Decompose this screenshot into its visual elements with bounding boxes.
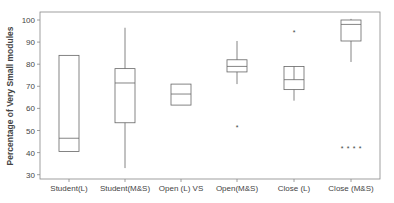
outlier-marker: * (236, 124, 239, 131)
y-axis: 30405060708090100 (22, 16, 40, 180)
box-close-m-s-: **** (341, 19, 362, 152)
x-tick-label: Open (L) VS (159, 184, 203, 193)
outlier-marker: * (347, 145, 350, 152)
y-tick-label: 100 (22, 16, 36, 25)
y-tick-label: 90 (26, 38, 35, 47)
box-open-m-s-: * (227, 41, 247, 131)
box-open-l-vs (171, 84, 191, 105)
plot-frame (40, 12, 380, 179)
box-student-m-s- (115, 28, 135, 168)
outlier-marker: * (359, 145, 362, 152)
iqr-box (227, 60, 247, 72)
box-student-l- (59, 55, 79, 151)
iqr-box (341, 20, 361, 41)
x-tick-label: Student(M&S) (100, 184, 151, 193)
x-tick-label: Student(L) (50, 184, 88, 193)
outlier-marker: * (353, 145, 356, 152)
y-tick-label: 60 (26, 104, 35, 113)
y-tick-label: 80 (26, 60, 35, 69)
x-tick-label: Close (M&S) (328, 184, 374, 193)
y-tick-label: 50 (26, 127, 35, 136)
iqr-box (171, 84, 191, 105)
plot-border (40, 12, 380, 179)
y-axis-label: Percentage of Very Small modules (5, 26, 15, 165)
box-close-l-: * (284, 29, 304, 101)
x-tick-label: Open(M&S) (216, 184, 259, 193)
iqr-box (115, 69, 135, 123)
outlier-marker: * (293, 29, 296, 36)
box-series: ****** (59, 19, 362, 168)
box-plot-chart: 30405060708090100 Student(L)Student(M&S)… (0, 0, 394, 203)
y-tick-label: 70 (26, 82, 35, 91)
y-tick-label: 40 (26, 149, 35, 158)
iqr-box (59, 55, 79, 151)
x-tick-label: Close (L) (278, 184, 311, 193)
y-tick-label: 30 (26, 171, 35, 180)
outlier-marker: * (341, 145, 344, 152)
x-axis: Student(L)Student(M&S)Open (L) VSOpen(M&… (50, 179, 374, 193)
